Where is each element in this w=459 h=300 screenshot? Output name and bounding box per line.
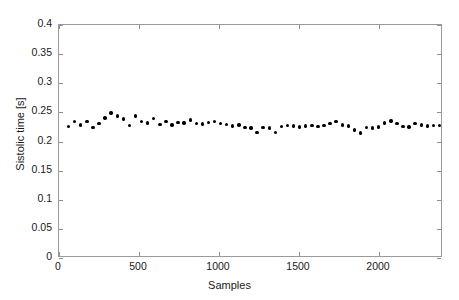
plot-area: [58, 24, 442, 257]
data-point: [140, 120, 143, 123]
y-axis-tick-right: [437, 25, 441, 26]
data-point: [213, 120, 216, 123]
data-point: [207, 121, 210, 124]
y-axis-tick-right: [437, 200, 441, 201]
y-axis-tick-right: [437, 229, 441, 230]
y-axis-tick: [59, 142, 63, 143]
data-point: [274, 131, 277, 134]
y-axis-tick-label: 0.3: [6, 76, 52, 87]
data-point: [365, 126, 368, 129]
x-axis-tick: [299, 252, 300, 256]
data-point: [328, 122, 331, 125]
x-axis-tick-top: [379, 25, 380, 29]
data-point: [79, 123, 82, 126]
data-point: [261, 126, 264, 129]
data-point: [353, 128, 356, 131]
y-axis-tick: [59, 258, 63, 259]
x-axis-tick-top: [299, 25, 300, 29]
data-point: [164, 120, 167, 123]
data-point: [322, 124, 325, 127]
data-point: [249, 126, 252, 129]
x-axis-tick: [379, 252, 380, 256]
data-series-layer: [59, 25, 441, 256]
y-axis-tick-label: 0.2: [6, 135, 52, 146]
data-point: [201, 122, 204, 125]
data-point: [219, 122, 222, 125]
y-axis-tick-label: 0.35: [6, 47, 52, 58]
scatter-chart-figure: 00.050.10.150.20.250.30.350.4 0500100015…: [0, 0, 459, 300]
x-axis-tick-label: 0: [28, 261, 88, 272]
data-point: [341, 123, 344, 126]
data-point: [383, 121, 386, 124]
data-point: [401, 125, 404, 128]
data-point: [73, 120, 76, 123]
y-axis-tick-right: [437, 83, 441, 84]
data-point: [359, 131, 362, 134]
data-point: [255, 131, 258, 134]
data-point: [170, 123, 173, 126]
x-axis-tick-label: 2000: [348, 261, 408, 272]
y-axis-tick-label: 0.15: [6, 164, 52, 175]
y-axis-tick: [59, 200, 63, 201]
data-point: [280, 125, 283, 128]
y-axis-tick-label: 0.25: [6, 105, 52, 116]
data-point: [292, 124, 295, 127]
x-axis-tick-label: 500: [108, 261, 168, 272]
data-point: [225, 123, 228, 126]
y-axis-tick-right: [437, 54, 441, 55]
x-axis-tick: [59, 252, 60, 256]
x-axis-tick-top: [219, 25, 220, 29]
data-point: [407, 125, 410, 128]
y-axis-tick-right: [437, 142, 441, 143]
data-point: [103, 116, 106, 119]
data-point: [334, 120, 337, 123]
data-point: [67, 125, 70, 128]
data-point: [426, 124, 429, 127]
data-point: [389, 119, 392, 122]
y-axis-tick: [59, 112, 63, 113]
data-point: [134, 114, 137, 117]
data-point: [395, 122, 398, 125]
data-point: [176, 121, 179, 124]
y-axis-tick-right: [437, 112, 441, 113]
data-point: [432, 124, 435, 127]
data-point: [152, 117, 155, 120]
data-point: [85, 120, 88, 123]
data-point: [413, 122, 416, 125]
data-point: [128, 124, 131, 127]
data-point: [304, 124, 307, 127]
x-axis-title: Samples: [0, 279, 459, 291]
data-point: [97, 122, 100, 125]
y-axis-tick: [59, 171, 63, 172]
data-point: [116, 114, 119, 117]
y-axis-tick: [59, 83, 63, 84]
data-point: [377, 125, 380, 128]
y-axis-tick-label: 0.4: [6, 18, 52, 29]
y-axis-title: Sistolic time [s]: [14, 44, 26, 224]
data-point: [268, 126, 271, 129]
data-point: [182, 121, 185, 124]
data-point: [237, 123, 240, 126]
x-axis-tick: [139, 252, 140, 256]
y-axis-tick-label: 0.05: [6, 222, 52, 233]
x-axis-tick: [219, 252, 220, 256]
data-point: [109, 111, 112, 114]
data-point: [347, 124, 350, 127]
data-point: [146, 121, 149, 124]
data-point: [195, 122, 198, 125]
y-axis-tick: [59, 54, 63, 55]
data-point: [91, 126, 94, 129]
data-point: [420, 123, 423, 126]
data-point: [438, 124, 441, 127]
y-axis-tick-right: [437, 171, 441, 172]
data-point: [371, 126, 374, 129]
data-point: [286, 124, 289, 127]
data-point: [158, 123, 161, 126]
x-axis-tick-top: [59, 25, 60, 29]
data-point: [189, 118, 192, 121]
data-point: [310, 124, 313, 127]
y-axis-tick-label: 0.1: [6, 193, 52, 204]
data-point: [231, 124, 234, 127]
x-axis-tick-top: [139, 25, 140, 29]
y-axis-tick-right: [437, 258, 441, 259]
